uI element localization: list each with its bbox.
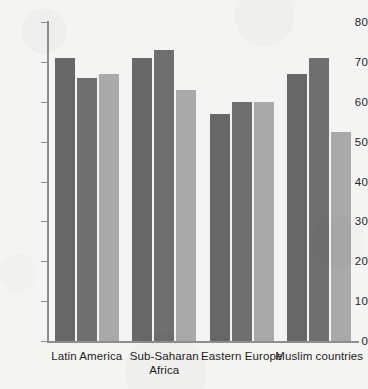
bar: [132, 58, 152, 341]
x-axis-label-line: Muslim countries: [271, 349, 368, 363]
bar: [210, 114, 230, 341]
bar: [99, 74, 119, 341]
bar: [254, 102, 274, 341]
bar: [232, 102, 252, 341]
y-axis-tick: [41, 142, 48, 143]
y-axis-tick: [41, 261, 48, 262]
x-axis-line: [47, 341, 359, 343]
bar: [331, 132, 351, 341]
bar: [287, 74, 307, 341]
bar: [154, 50, 174, 341]
y-axis-tick-label: 0: [332, 336, 368, 348]
y-axis-tick-label: 60: [332, 97, 368, 109]
y-axis-tick-label: 40: [332, 177, 368, 189]
x-axis-category-label: Muslim countries: [271, 349, 368, 363]
y-axis-tick: [41, 221, 48, 222]
y-axis-tick: [41, 182, 48, 183]
y-axis-tick: [41, 102, 48, 103]
y-axis-tick: [41, 341, 48, 342]
y-axis-tick-label: 20: [332, 256, 368, 268]
y-axis-tick: [41, 22, 48, 23]
bar: [309, 58, 329, 341]
bar: [55, 58, 75, 341]
bar: [77, 78, 97, 341]
y-axis-tick: [41, 62, 48, 63]
bar: [176, 90, 196, 341]
bar-chart: 80706050403020100 Latin AmericaSub-Sahar…: [0, 0, 368, 389]
y-axis-tick-label: 70: [332, 57, 368, 69]
plot-area: [48, 22, 358, 341]
y-axis-tick: [41, 301, 48, 302]
y-axis-tick-label: 10: [332, 296, 368, 308]
y-axis-tick-label: 80: [332, 17, 368, 29]
y-axis-tick-label: 50: [332, 137, 368, 149]
x-axis-label-line: Africa: [116, 363, 214, 377]
y-axis-tick-label: 30: [332, 216, 368, 228]
